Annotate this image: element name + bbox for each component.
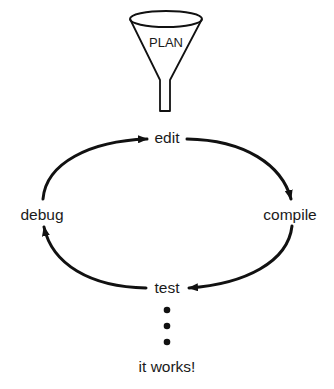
- funnel-label: PLAN: [149, 35, 183, 50]
- node-debug: debug: [20, 206, 63, 223]
- vertical-ellipsis-icon: [164, 307, 171, 346]
- funnel-icon: [130, 11, 202, 111]
- result-label: it works!: [139, 358, 196, 375]
- diagram-canvas: PLAN edit compile test debug it works!: [0, 0, 334, 389]
- arrow-debug-to-edit: [43, 139, 147, 199]
- arrow-test-to-debug: [44, 227, 146, 288]
- arrow-edit-to-compile: [187, 139, 291, 199]
- arrow-compile-to-test: [189, 226, 292, 288]
- node-edit: edit: [155, 129, 181, 146]
- node-compile: compile: [263, 206, 316, 223]
- node-test: test: [155, 279, 181, 296]
